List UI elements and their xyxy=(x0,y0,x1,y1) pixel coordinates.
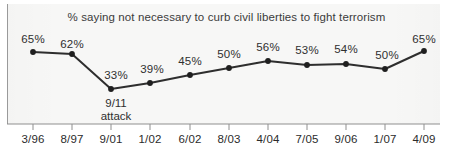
data-point-marker xyxy=(187,72,193,78)
data-value-label: 56% xyxy=(256,41,280,53)
x-axis-tick-label: 4/09 xyxy=(412,133,435,145)
data-value-label: 33% xyxy=(104,69,128,81)
data-value-label: 65% xyxy=(412,33,436,45)
x-axis-tick-label: 1/07 xyxy=(373,133,396,145)
x-axis-tick-label: 8/97 xyxy=(60,133,83,145)
annotation-9-11-attack: 9/11 attack xyxy=(101,97,132,123)
x-axis-tick-label: 8/03 xyxy=(217,133,240,145)
x-axis-ticks xyxy=(33,124,424,130)
x-axis-tick-label: 1/02 xyxy=(138,133,161,145)
line-chart-plot xyxy=(0,0,453,153)
data-point-marker xyxy=(147,80,153,86)
data-point-marker xyxy=(343,61,349,67)
x-axis-tick-label: 7/05 xyxy=(295,133,318,145)
x-axis-tick-label: 3/96 xyxy=(21,133,44,145)
x-axis-tick-label: 6/02 xyxy=(178,133,201,145)
data-point-marker xyxy=(265,58,271,64)
data-point-marker xyxy=(69,51,75,57)
data-value-label: 65% xyxy=(21,33,45,45)
data-value-label: 50% xyxy=(375,49,399,61)
data-point-marker xyxy=(382,66,388,72)
data-point-marker xyxy=(30,49,36,55)
data-point-marker xyxy=(421,48,427,54)
data-value-label: 53% xyxy=(295,44,319,56)
x-axis-tick-label: 4/04 xyxy=(256,133,279,145)
x-axis-tick-label: 9/01 xyxy=(99,133,122,145)
data-value-label: 62% xyxy=(60,38,84,50)
x-axis-tick-label: 9/06 xyxy=(334,133,357,145)
data-point-marker xyxy=(226,65,232,71)
data-point-marker xyxy=(108,86,114,92)
data-value-label: 39% xyxy=(140,63,164,75)
data-value-label: 54% xyxy=(334,43,358,55)
data-value-label: 45% xyxy=(178,55,202,67)
annotation-line-1: 9/11 xyxy=(101,97,132,110)
annotation-line-2: attack xyxy=(101,110,132,123)
data-value-label: 50% xyxy=(217,48,241,60)
data-point-marker xyxy=(304,62,310,68)
chart-figure: % saying not necessary to curb civil lib… xyxy=(0,0,453,153)
